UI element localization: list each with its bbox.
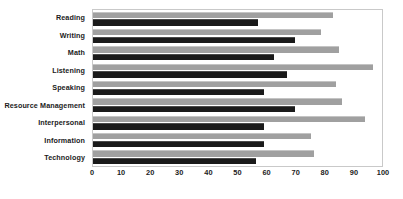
bar-primary xyxy=(93,37,295,43)
category-label: Interpersonal xyxy=(38,114,89,132)
bar-secondary xyxy=(93,98,342,104)
bar-row xyxy=(93,62,382,79)
bar-row xyxy=(93,149,382,166)
category-label: Math xyxy=(68,44,89,62)
bar-secondary xyxy=(93,46,339,52)
bar-primary xyxy=(93,106,295,112)
x-tick-label: 80 xyxy=(321,168,329,177)
category-axis-labels: ReadingWritingMathListeningSpeakingResou… xyxy=(0,9,89,167)
bar-row xyxy=(93,97,382,114)
bar-primary xyxy=(93,19,258,25)
x-tick-label: 50 xyxy=(233,168,241,177)
bar-secondary xyxy=(93,64,373,70)
bar-primary xyxy=(93,123,264,129)
bar-row xyxy=(93,27,382,44)
x-tick-label: 70 xyxy=(291,168,299,177)
category-label: Listening xyxy=(52,62,89,80)
category-label: Writing xyxy=(60,27,89,45)
x-tick-label: 10 xyxy=(117,168,125,177)
bar-secondary xyxy=(93,12,333,18)
bar-primary xyxy=(93,54,274,60)
value-axis: 0102030405060708090100 xyxy=(92,168,383,182)
x-tick-label: 100 xyxy=(377,168,390,177)
bar-secondary xyxy=(93,133,311,139)
bar-rows xyxy=(93,10,382,166)
x-tick-label: 90 xyxy=(350,168,358,177)
bar-chart: ReadingWritingMathListeningSpeakingResou… xyxy=(0,0,403,199)
bar-secondary xyxy=(93,81,336,87)
category-label: Resource Management xyxy=(4,97,89,115)
bar-row xyxy=(93,114,382,131)
bar-row xyxy=(93,10,382,27)
category-label: Reading xyxy=(56,9,89,27)
x-tick-label: 30 xyxy=(175,168,183,177)
x-tick-label: 40 xyxy=(204,168,212,177)
bar-secondary xyxy=(93,29,321,35)
category-label: Technology xyxy=(44,149,89,167)
bar-primary xyxy=(93,71,287,77)
bar-row xyxy=(93,131,382,148)
x-tick-label: 20 xyxy=(146,168,154,177)
bar-secondary xyxy=(93,150,314,156)
bar-primary xyxy=(93,158,256,164)
bar-secondary xyxy=(93,116,365,122)
category-label: Speaking xyxy=(52,79,89,97)
x-tick-label: 0 xyxy=(90,168,94,177)
plot-area xyxy=(92,9,383,167)
category-label: Information xyxy=(44,132,89,150)
bar-primary xyxy=(93,89,264,95)
bar-row xyxy=(93,79,382,96)
bar-row xyxy=(93,45,382,62)
bar-primary xyxy=(93,141,264,147)
x-tick-label: 60 xyxy=(262,168,270,177)
